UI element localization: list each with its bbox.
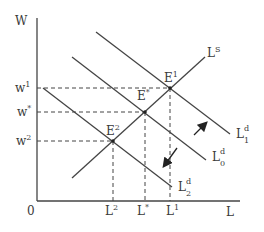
origin-label: 0	[27, 204, 35, 218]
L2-label: L2	[105, 203, 118, 218]
labor-market-diagram: W L 0 w1 w* w2 L2 L* L1 LS L d 1 L d 0 L…	[0, 0, 264, 232]
equilibrium-point-Estar	[143, 110, 147, 114]
demand-1-sub: 1	[244, 136, 249, 145]
supply-curve	[72, 57, 205, 178]
demand-0-label: L	[212, 150, 220, 164]
shift-up-arrow-icon	[194, 123, 206, 135]
demand-curve-0	[72, 57, 206, 160]
L1-label: L1	[166, 203, 179, 218]
Estar-label: E*	[137, 88, 150, 103]
w2-label: w2	[16, 133, 31, 148]
equilibrium-point-E2	[111, 139, 115, 143]
demand-1-sup: d	[244, 124, 249, 133]
demand-2-sup: d	[186, 177, 191, 186]
demand-2-sub: 2	[186, 189, 191, 198]
wstar-label: w*	[17, 104, 31, 119]
y-axis-label: W	[15, 14, 28, 28]
demand-0-sub: 0	[220, 159, 225, 168]
demand-0-sup: d	[220, 147, 225, 156]
equilibrium-point-E1	[168, 86, 172, 90]
x-axis-label: L	[226, 205, 234, 219]
shift-down-arrow-icon	[164, 148, 177, 166]
Lstar-label: L*	[137, 203, 149, 218]
w1-label: w1	[15, 80, 30, 95]
supply-curve-label: LS	[207, 45, 220, 60]
demand-1-label: L	[236, 127, 244, 141]
demand-2-label: L	[178, 180, 186, 194]
